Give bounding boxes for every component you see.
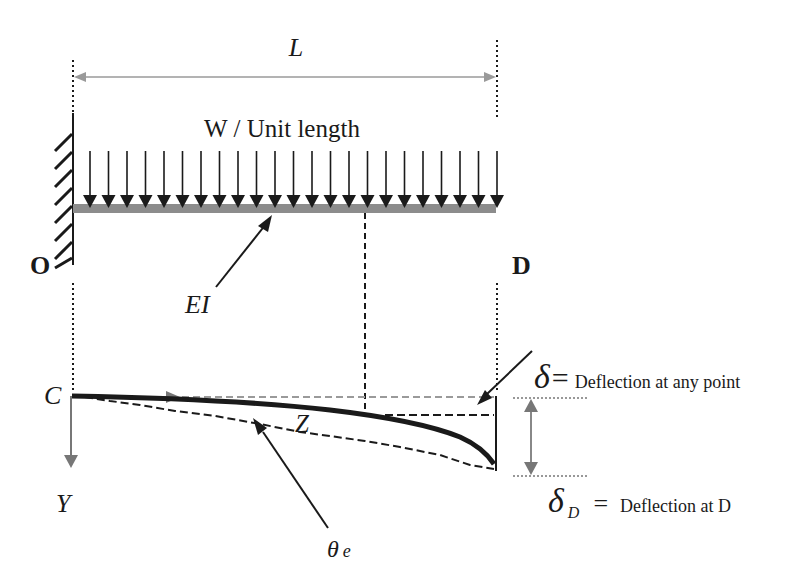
load-arrow-icon [490, 151, 504, 208]
theta-arrowhead-icon [253, 418, 267, 435]
load-arrow-icon [250, 151, 264, 208]
load-arrow-icon [379, 151, 393, 208]
load-arrow-icon [102, 151, 116, 208]
beam-diagram: L W / Unit length O D EI C [0, 0, 799, 586]
load-arrow-icon [305, 151, 319, 208]
ei-arrowhead-icon [258, 215, 272, 232]
delta-legend: δ=Deflection at any point [534, 358, 740, 395]
load-arrow-icon [416, 151, 430, 208]
delta-d-up-arrowhead-icon [524, 399, 538, 412]
span-label: L [288, 33, 303, 62]
deflection-diagram: C Y Z θe δ=Deflectio [44, 351, 740, 562]
load-arrow-icon [213, 151, 227, 208]
beam [73, 204, 496, 213]
load-arrow-icon [268, 151, 282, 208]
fixed-support: O [30, 113, 73, 280]
right-arrowhead-icon [484, 72, 496, 82]
load-arrow-icon [453, 151, 467, 208]
theta-label: θe [327, 536, 351, 562]
load-arrow-icon [472, 151, 486, 208]
load-arrow-icon [435, 151, 449, 208]
delta-d-legend: δD=Deflection at D [548, 482, 731, 521]
point-z-label: Z [295, 410, 310, 437]
load-arrow-icon [194, 151, 208, 208]
distributed-load-arrows [83, 151, 504, 208]
y-axis-label: Y [56, 489, 73, 518]
wall-hatching-icon [55, 134, 72, 268]
delta-pointer-line [487, 351, 532, 394]
load-arrow-icon [139, 151, 153, 208]
load-arrow-icon [361, 151, 375, 208]
ei-label: EI [184, 290, 211, 319]
left-arrowhead-icon [74, 72, 86, 82]
load-arrow-icon [287, 151, 301, 208]
load-arrow-icon [157, 151, 171, 208]
load-arrow-icon [324, 151, 338, 208]
y-axis-arrowhead-icon [64, 455, 78, 468]
origin-label: C [44, 381, 62, 410]
load-label: W / Unit length [204, 115, 360, 142]
ei-pointer: EI [184, 215, 272, 319]
ei-pointer-line [216, 224, 266, 287]
load-arrow-icon [231, 151, 245, 208]
load-arrow-icon [398, 151, 412, 208]
load-arrow-icon [120, 151, 134, 208]
theta-pointer-line [263, 432, 328, 528]
fixed-end-label: O [30, 251, 50, 280]
delta-d-down-arrowhead-icon [524, 462, 538, 475]
load-arrow-icon [342, 151, 356, 208]
load-arrow-icon [83, 151, 97, 208]
free-end-label: D [512, 251, 531, 280]
load-arrow-icon [176, 151, 190, 208]
